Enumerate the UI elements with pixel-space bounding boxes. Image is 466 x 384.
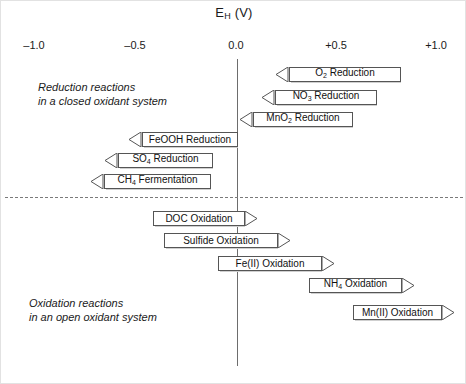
axis-title-unit: (V) — [231, 5, 253, 20]
reaction-arrow: Fe(II) Oxidation — [218, 256, 335, 271]
reaction-arrow: Mn(II) Oxidation — [353, 305, 455, 320]
axis-tick-2: 0.0 — [228, 39, 243, 51]
redox-ladder-figure: EH (V) –1.0–0.50.0+0.5+1.0 Reduction rea… — [0, 0, 466, 384]
reaction-label: O2 Reduction — [311, 68, 379, 81]
reaction-arrow: Sulfide Oxidation — [164, 233, 291, 248]
reaction-arrow: MnO2 Reduction — [240, 112, 353, 127]
arrow-body: SO4 Reduction — [118, 153, 213, 168]
arrow-body: Fe(II) Oxidation — [218, 256, 322, 271]
axis-title: EH (V) — [1, 5, 466, 21]
reaction-arrow: SO4 Reduction — [105, 153, 213, 168]
caption-reduction-line2: in a closed oxidant system — [38, 94, 167, 108]
caption-oxidation: Oxidation reactions in an open oxidant s… — [29, 296, 157, 324]
reaction-label: FeOOH Reduction — [145, 135, 235, 145]
reaction-arrow: NH4 Oxidation — [309, 278, 415, 293]
reaction-label: MnO2 Reduction — [262, 113, 343, 126]
reaction-label: SO4 Reduction — [128, 154, 202, 167]
caption-reduction: Reduction reactions in a closed oxidant … — [38, 80, 167, 108]
reaction-label: Sulfide Oxidation — [179, 236, 263, 246]
arrow-head-left-icon — [105, 153, 118, 168]
arrow-head-right-icon — [278, 233, 291, 248]
arrow-head-left-icon — [262, 90, 275, 105]
arrow-head-right-icon — [442, 305, 455, 320]
axis-tick-3: +0.5 — [325, 39, 347, 51]
reaction-arrow: CH4 Fermentation — [91, 174, 211, 189]
arrow-body: FeOOH Reduction — [142, 132, 238, 147]
arrow-body: O2 Reduction — [289, 67, 401, 82]
arrow-body: MnO2 Reduction — [253, 112, 353, 127]
arrow-head-left-icon — [240, 112, 253, 127]
reaction-label: Mn(II) Oxidation — [358, 308, 437, 318]
reaction-label: DOC Oxidation — [161, 214, 236, 224]
arrow-head-right-icon — [245, 211, 258, 226]
reaction-label: CH4 Fermentation — [113, 175, 201, 188]
caption-oxidation-line2: in an open oxidant system — [29, 310, 157, 324]
reaction-label: NH4 Oxidation — [320, 279, 391, 292]
caption-oxidation-line1: Oxidation reactions — [29, 296, 157, 310]
axis-title-subscript: H — [224, 11, 231, 21]
arrow-body: CH4 Fermentation — [104, 174, 211, 189]
arrow-body: Sulfide Oxidation — [164, 233, 278, 248]
caption-reduction-line1: Reduction reactions — [38, 80, 167, 94]
axis-tick-0: –1.0 — [23, 39, 44, 51]
arrow-head-right-icon — [402, 278, 415, 293]
reaction-arrow: NO3 Reduction — [262, 90, 377, 105]
arrow-body: NH4 Oxidation — [309, 278, 402, 293]
axis-tick-1: –0.5 — [124, 39, 145, 51]
arrow-body: DOC Oxidation — [153, 211, 245, 226]
axis-tick-4: +1.0 — [425, 39, 447, 51]
arrow-head-right-icon — [322, 256, 335, 271]
reaction-arrow: O2 Reduction — [276, 67, 401, 82]
reaction-arrow: DOC Oxidation — [153, 211, 258, 226]
section-divider — [5, 197, 463, 198]
reaction-arrow: FeOOH Reduction — [129, 132, 238, 147]
axis-title-symbol: E — [215, 5, 224, 20]
reaction-label: NO3 Reduction — [289, 91, 364, 104]
arrow-head-left-icon — [129, 132, 142, 147]
arrow-head-left-icon — [91, 174, 104, 189]
arrow-body: Mn(II) Oxidation — [353, 305, 442, 320]
arrow-body: NO3 Reduction — [275, 90, 377, 105]
reaction-label: Fe(II) Oxidation — [232, 259, 309, 269]
arrow-head-left-icon — [276, 67, 289, 82]
